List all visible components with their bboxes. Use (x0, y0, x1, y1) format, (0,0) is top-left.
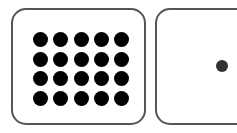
card-one-dot (155, 8, 237, 125)
dot (53, 91, 68, 106)
dot (114, 52, 129, 67)
dot (53, 71, 68, 86)
dot (53, 52, 68, 67)
dot (33, 52, 48, 67)
dot-grid (33, 32, 129, 106)
dot (114, 91, 129, 106)
dot (94, 91, 109, 106)
dot (74, 91, 89, 106)
dot (33, 71, 48, 86)
dot (53, 32, 68, 47)
dot (114, 71, 129, 86)
dot (33, 32, 48, 47)
dot (94, 32, 109, 47)
dot (74, 32, 89, 47)
dot (74, 52, 89, 67)
dot (94, 71, 109, 86)
dot (114, 32, 129, 47)
dot (33, 91, 48, 106)
dot (74, 71, 89, 86)
card-twenty-dots (11, 8, 146, 125)
dot (94, 52, 109, 67)
single-dot (216, 60, 228, 72)
